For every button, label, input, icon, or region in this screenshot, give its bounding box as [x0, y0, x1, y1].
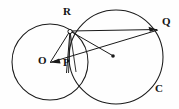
point-label-r: R	[63, 6, 71, 17]
segment-r-center-c	[70, 31, 113, 56]
geometry-canvas	[0, 0, 179, 109]
geometry-figure: O P R Q C	[0, 0, 179, 109]
point-marker-r	[68, 29, 72, 33]
circle-c	[69, 10, 163, 104]
point-label-q: Q	[162, 16, 171, 27]
point-label-o: O	[38, 55, 47, 66]
point-label-p: P	[63, 57, 70, 68]
segment-r-q	[70, 30, 157, 32]
center-dot-c	[111, 54, 115, 58]
circle-label-c: C	[155, 83, 163, 94]
